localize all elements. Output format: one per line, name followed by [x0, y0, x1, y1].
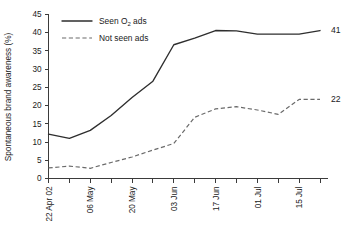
y-axis-title-group: Spontaneous brand awareness (%): [4, 33, 13, 162]
x-tick-label: 17 Jun: [212, 186, 221, 211]
y-tick-label: 10: [32, 138, 42, 147]
legend-label-seen-o2-ads: Seen O2 ads: [99, 16, 147, 27]
y-tick-label: 35: [32, 47, 42, 56]
y-tick-label: 30: [32, 65, 42, 74]
chart-container: Spontaneous brand awareness (%) 05101520…: [0, 0, 346, 237]
x-tick-label: 06 May: [86, 186, 95, 214]
x-tick-label: 22 Apr 02: [45, 186, 54, 221]
y-tick-label: 0: [37, 174, 42, 183]
y-axis-ticks: 051015202530354045: [32, 10, 48, 183]
y-tick-label: 20: [32, 101, 42, 110]
y-tick-label: 25: [32, 83, 42, 92]
x-tick-label: 15 Jul: [295, 186, 304, 208]
line-chart: Spontaneous brand awareness (%) 05101520…: [0, 0, 346, 237]
legend: Seen O2 ads Not seen ads: [62, 16, 148, 43]
x-tick-label: 20 May: [128, 186, 137, 214]
series-line-seen-o2-ads: [49, 31, 321, 139]
y-tick-label: 15: [32, 120, 42, 129]
y-tick-label: 5: [37, 156, 42, 165]
x-axis-tick-labels: 22 Apr 0206 May20 May03 Jun17 Jun01 Jul1…: [45, 186, 305, 222]
y-axis-title: Spontaneous brand awareness (%): [4, 33, 13, 162]
y-tick-label: 45: [32, 10, 42, 19]
legend-label-not-seen-ads: Not seen ads: [99, 33, 148, 43]
y-tick-label: 40: [32, 28, 42, 37]
x-axis-ticks: [49, 179, 321, 183]
x-tick-label: 01 Jul: [254, 186, 263, 208]
x-tick-label: 03 Jun: [170, 186, 179, 211]
end-label-seen-o2-ads: 41: [331, 25, 341, 35]
series-line-not-seen-ads: [49, 99, 321, 168]
end-label-not-seen-ads: 22: [331, 94, 341, 104]
